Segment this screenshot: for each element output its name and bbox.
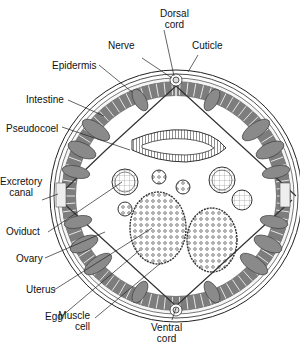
label-ventral-cord: Ventral cord bbox=[151, 322, 182, 344]
label-ovary: Ovary bbox=[16, 253, 43, 264]
label-uterus: Uterus bbox=[26, 284, 55, 295]
label-excretory-canal-line1: Excretory bbox=[0, 176, 42, 187]
label-muscle-cell-line2: cell bbox=[56, 321, 90, 332]
label-epidermis: Epidermis bbox=[52, 60, 96, 71]
label-muscle-cell: Muscle cell bbox=[56, 310, 90, 332]
label-oviduct: Oviduct bbox=[6, 226, 40, 237]
label-cuticle: Cuticle bbox=[192, 40, 223, 51]
label-ventral-cord-line1: Ventral bbox=[151, 322, 182, 333]
label-nerve: Nerve bbox=[108, 40, 135, 51]
label-ventral-cord-line2: cord bbox=[151, 333, 182, 344]
label-dorsal-cord-line2: cord bbox=[160, 19, 189, 30]
label-dorsal-cord-line1: Dorsal bbox=[160, 8, 189, 19]
label-excretory-canal-line2: canal bbox=[0, 187, 42, 198]
muscle-layer bbox=[61, 80, 291, 311]
label-muscle-cell-line1: Muscle bbox=[56, 310, 90, 321]
label-intestine: Intestine bbox=[26, 94, 64, 105]
label-pseudocoel: Pseudocoel bbox=[6, 123, 58, 134]
nematode-cross-section-diagram: Dorsal cord Nerve Cuticle Epidermis Inte… bbox=[0, 0, 300, 350]
label-excretory-canal: Excretory canal bbox=[0, 176, 42, 198]
diagram-figure bbox=[0, 0, 300, 350]
label-dorsal-cord: Dorsal cord bbox=[160, 8, 189, 30]
